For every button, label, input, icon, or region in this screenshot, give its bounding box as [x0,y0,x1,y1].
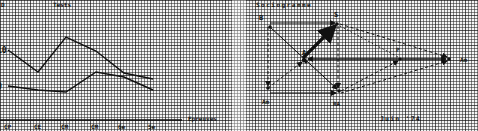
chart-corner-label: D [1,1,5,8]
node-label-s: S [334,11,338,19]
x-tick-label: CM [61,123,69,130]
node-label-p: P [396,46,400,53]
y-tick-label: 0 [0,82,2,91]
diagram-date: Juin '74 [380,115,421,123]
line-chart: D Tests 10 0 Epreuves CP CE CM CM 6e 5e [0,1,217,130]
sociogram-diagram: Sociogramme B S A P Am Am RA [256,1,468,123]
node-label-am-left: Am [262,98,270,105]
node-label-b: B [259,14,263,22]
x-tick-label: CP [4,123,12,130]
node-label-ra: RA [333,100,341,107]
y-tick-label: 10 [0,46,7,55]
edge-s-p-dotted [340,26,398,57]
node-label-am-right: Am [460,56,468,63]
edge-s-am-dashed [340,24,447,57]
x-tick-label: CM [91,123,99,130]
chart-title: Tests [53,1,71,8]
x-tick-label: 6e [118,123,126,130]
edge-ra-am-dashed [341,61,447,93]
figure-canvas: D Tests 10 0 Epreuves CP CE CM CM 6e 5e … [0,0,478,131]
x-tick-label: 5e [148,123,156,130]
x-axis-label: Epreuves [188,115,217,123]
series-upper-line [8,37,153,79]
x-tick-label: CE [34,123,42,130]
edge-am-a-dashed [268,62,302,88]
edge-ra-p-dashed [341,61,398,91]
edge-a-s-strong [303,26,335,58]
diagram-title: Sociogramme [256,1,312,9]
